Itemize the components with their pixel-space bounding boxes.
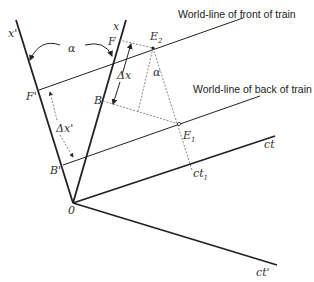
ct-prime-label: ct': [256, 266, 270, 279]
delta-x-prime-arrow-up: [50, 92, 57, 120]
back-world-line: [63, 96, 260, 165]
event-E1: [177, 122, 180, 125]
x-prime-label: x': [8, 27, 17, 40]
delta-x-prime-label: Δx': [55, 122, 73, 135]
ct-prime-axis: [73, 203, 277, 265]
front-world-line-label: World-line of front of train: [178, 8, 296, 20]
delta-x-arrow-down: [113, 82, 120, 104]
alpha-mid-label: α: [153, 66, 161, 79]
ct-label: ct: [264, 138, 275, 151]
x-label: x: [113, 20, 120, 33]
dash-E2-perp: [138, 48, 153, 112]
delta-x-label: Δx: [116, 69, 132, 82]
dash-B-E1: [103, 101, 179, 124]
alpha-arrow-left: [30, 43, 60, 60]
event-E2: [151, 46, 154, 49]
F-label: F: [107, 35, 116, 48]
E2-label: E2: [149, 30, 163, 45]
x-axis: [73, 20, 126, 203]
F-prime-label: F': [25, 90, 37, 103]
B-label: B: [93, 94, 102, 107]
ct1-label: ct1: [193, 167, 208, 182]
alpha-top-label: α: [68, 42, 76, 55]
ct-axis: [73, 136, 275, 203]
back-world-line-label: World-line of back of train: [193, 83, 312, 95]
delta-x-prime-arrow-down: [60, 135, 73, 157]
dash-F-E2: [119, 40, 153, 48]
B-prime-label: B': [49, 164, 61, 177]
E1-label: E1: [182, 129, 196, 144]
origin-label: 0: [68, 204, 75, 217]
spacetime-diagram: x' x α F F' B B' Δx Δx' α E2 E1 ct1 ct c…: [0, 0, 314, 282]
x-prime-axis: [16, 20, 73, 203]
